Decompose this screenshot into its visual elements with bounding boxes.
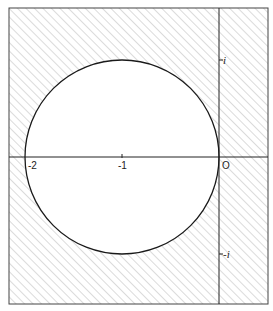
real-tick-label: O (222, 160, 230, 171)
real-tick-label: -2 (28, 160, 37, 171)
real-tick-label: -1 (118, 160, 127, 171)
imag-tick-label: -i (223, 248, 230, 260)
imag-tick-label: i (223, 54, 226, 66)
complex-plane-diagram: -2-1Oi-i (0, 0, 273, 311)
